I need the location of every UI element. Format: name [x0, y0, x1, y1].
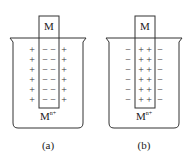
plus-charge: +	[29, 94, 35, 105]
electrode-double-layer-diagram: +−−++−−++−−++−−++−−++−−+−++−−++−−++−−++−…	[0, 0, 193, 157]
caption-b: (b)	[124, 139, 164, 151]
plus-charge: +	[146, 94, 152, 105]
minus-charge: −	[157, 94, 163, 105]
solution-label-a: Mn+	[28, 110, 68, 122]
electrode-label-a: M	[39, 20, 59, 32]
electrode-label-b: M	[135, 20, 155, 32]
plus-charge: +	[138, 94, 144, 105]
caption-a: (a)	[28, 139, 68, 151]
minus-charge: −	[42, 94, 48, 105]
minus-charge: −	[50, 94, 56, 105]
plus-charge: +	[61, 94, 67, 105]
solution-label-b: Mn+	[124, 110, 164, 122]
minus-charge: −	[125, 94, 131, 105]
